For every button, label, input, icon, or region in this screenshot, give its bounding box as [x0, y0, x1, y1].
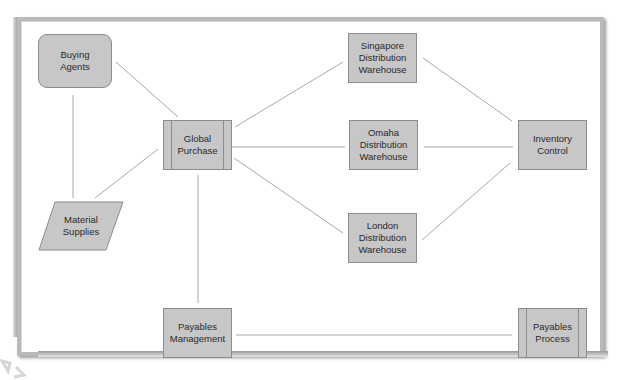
node-payables-process: Payables Process — [518, 308, 587, 358]
edge-london-inventory-control — [422, 163, 510, 240]
node-label: Buying Agents — [60, 49, 90, 73]
node-material-supplies: Material Supplies — [38, 201, 124, 251]
edge-material-supplies-global-purchase — [95, 149, 158, 198]
node-singapore-warehouse: Singapore Distribution Warehouse — [348, 33, 417, 83]
node-label: Inventory Control — [533, 133, 572, 157]
node-buying-agents: Buying Agents — [38, 34, 112, 88]
node-omaha-warehouse: Omaha Distribution Warehouse — [349, 120, 418, 170]
node-london-warehouse: London Distribution Warehouse — [348, 213, 417, 263]
node-label: Payables Management — [170, 321, 225, 345]
edge-global-purchase-london — [234, 158, 343, 233]
node-inventory-control: Inventory Control — [518, 120, 587, 170]
node-label: Global Purchase — [177, 133, 217, 157]
edge-buying-agents-global-purchase — [116, 62, 178, 117]
edge-global-purchase-singapore — [235, 62, 343, 127]
node-label: Material Supplies — [38, 201, 124, 251]
node-global-purchase: Global Purchase — [163, 120, 232, 170]
edge-singapore-inventory-control — [423, 58, 512, 121]
node-label: Omaha Distribution Warehouse — [359, 127, 407, 163]
corner-mark-icon — [0, 357, 30, 379]
node-label: Singapore Distribution Warehouse — [358, 40, 406, 76]
node-label: London Distribution Warehouse — [358, 220, 406, 256]
node-label: Payables Process — [533, 321, 572, 345]
node-payables-management: Payables Management — [163, 308, 232, 358]
